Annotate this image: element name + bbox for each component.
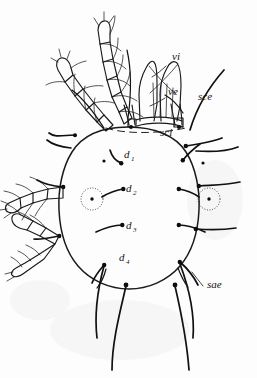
mite-dorsal-drawing: vi ve sce sci sae d 1 d 2 d 3 d 4 <box>0 0 257 378</box>
label-d2-sub: 2 <box>133 189 137 197</box>
label-sae-text: sae <box>207 278 222 290</box>
label-vi: vi <box>172 50 180 62</box>
label-d2: d 2 <box>126 182 137 197</box>
label-d3-base: d <box>126 219 132 231</box>
label-sae: sae <box>207 278 222 290</box>
label-d4: d 4 <box>119 251 130 266</box>
lyrifissure-left <box>81 188 103 210</box>
label-ve-text: ve <box>168 85 178 97</box>
label-d4-sub: 4 <box>126 258 130 266</box>
label-ve: ve <box>168 85 178 97</box>
marginal-setae-left <box>34 133 77 239</box>
label-sci: sci <box>160 126 172 138</box>
label-d3-sub: 3 <box>132 226 137 234</box>
mite-illustration-figure: vi ve sce sci sae d 1 d 2 d 3 d 4 <box>0 0 257 378</box>
label-d2-base: d <box>126 182 132 194</box>
label-d1-base: d <box>124 148 130 160</box>
dorsal-setae-left <box>96 150 128 287</box>
label-d1: d 1 <box>124 148 135 163</box>
label-sci-text: sci <box>160 126 172 138</box>
label-d1-sub: 1 <box>131 155 135 163</box>
label-vi-text: vi <box>172 50 180 62</box>
leg-IV <box>5 205 59 281</box>
label-sce-text: sce <box>198 90 212 102</box>
label-sce: sce <box>198 90 212 102</box>
leg-I <box>94 12 143 124</box>
leg-III <box>0 177 63 220</box>
label-d4-base: d <box>119 251 125 263</box>
label-d3: d 3 <box>126 219 137 234</box>
posterior-marginal-setae <box>92 260 198 288</box>
